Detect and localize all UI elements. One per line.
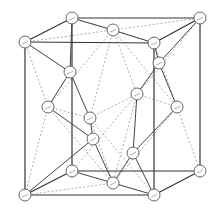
crystal-diagram: [0, 0, 222, 214]
dashed-line: [25, 42, 48, 107]
atom: [64, 66, 76, 78]
dashed-line: [90, 118, 113, 183]
bond-line: [25, 139, 93, 195]
atom: [19, 36, 31, 48]
atom: [148, 189, 160, 201]
dashed-line: [113, 107, 177, 183]
dashed-line: [25, 107, 48, 195]
bond-line: [133, 107, 177, 153]
dashed-line: [113, 30, 177, 107]
bond-line: [113, 30, 154, 43]
atom: [107, 24, 119, 36]
atom: [87, 133, 99, 145]
dashed-line: [113, 94, 137, 183]
cube-edge: [154, 18, 200, 43]
dashed-line: [48, 107, 113, 183]
atom: [171, 101, 183, 113]
cube-edge: [154, 171, 200, 195]
dashed-line: [113, 18, 200, 30]
dashed-line: [25, 183, 113, 195]
bond-line: [159, 63, 177, 107]
dashed-line: [90, 94, 137, 118]
atom: [66, 12, 78, 24]
atom: [148, 37, 160, 49]
atom: [42, 101, 54, 113]
dashed-line: [177, 107, 200, 171]
dashed-line: [25, 30, 113, 42]
atom: [127, 147, 139, 159]
atom: [19, 189, 31, 201]
atom: [194, 165, 206, 177]
bond-line: [93, 139, 113, 183]
cube-edge: [25, 18, 72, 42]
atom: [84, 112, 96, 124]
dashed-line: [113, 30, 137, 94]
atom: [66, 165, 78, 177]
dashed-line: [72, 94, 137, 171]
dashed-line: [48, 107, 90, 118]
dashed-line: [90, 118, 154, 195]
atom: [131, 88, 143, 100]
bond-line: [159, 18, 200, 63]
cube-edge: [25, 42, 154, 43]
atom: [107, 177, 119, 189]
bond-line: [70, 72, 90, 118]
atom: [194, 12, 206, 24]
bond-line: [25, 42, 70, 72]
atom: [153, 57, 165, 69]
